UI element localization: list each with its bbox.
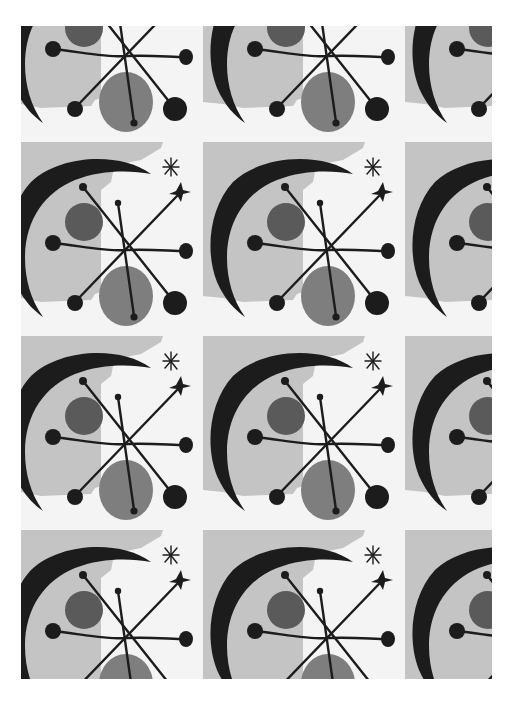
pattern-image [21, 26, 492, 679]
